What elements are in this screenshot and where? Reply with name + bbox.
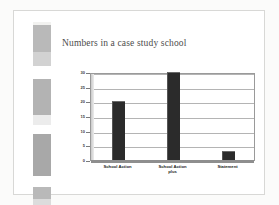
page-title: Numbers in a case study school [62,37,262,49]
film-strip-block [33,79,51,115]
y-axis-labels: 302520151050 [74,73,85,161]
bar-chart: 302520151050 School ActionSchool Actionp… [74,73,259,181]
y-axis-tick-mark [86,161,90,162]
y-axis-tick-label: 15 [74,115,85,119]
film-strip-block [33,52,51,66]
film-strip-block [33,134,51,176]
film-strip-block [33,187,51,199]
x-axis-tick-label: Statement [194,164,261,169]
y-axis-tick-label: 20 [74,100,85,104]
y-axis-tick-label: 0 [74,159,85,163]
film-strip-block [33,115,51,125]
x-axis-tick-label-line: plus [139,169,206,174]
y-axis-tick-label: 10 [74,130,85,134]
y-axis-tick-label: 5 [74,144,85,148]
film-strip-block [33,199,51,205]
film-strip-block [33,66,51,79]
axis-floor [91,160,254,163]
bar [112,101,125,160]
y-axis-tick-label: 30 [74,71,85,75]
x-axis-labels: School ActionSchool ActionplusStatement [90,164,255,182]
scanned-page: Numbers in a case study school 302520151… [0,0,279,205]
film-strip-block [33,25,51,52]
plot-area [90,73,255,161]
x-axis-tick-label-line: Statement [194,164,261,169]
bars-layer [91,74,254,160]
y-axis-tick-label: 25 [74,86,85,90]
slide-frame: Numbers in a case study school 302520151… [13,10,265,195]
bar [222,151,235,160]
film-strip-block [33,176,51,187]
decorative-film-strip [33,22,51,205]
bar [167,72,180,160]
film-strip-block [33,125,51,134]
